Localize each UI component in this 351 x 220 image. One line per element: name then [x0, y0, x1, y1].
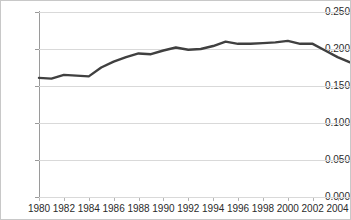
x-axis-tick-label: 1990	[152, 203, 174, 214]
x-axis-tick-mark	[89, 198, 90, 201]
series-polyline	[39, 41, 350, 79]
x-axis-tick-label: 1982	[53, 203, 75, 214]
gridline	[39, 197, 350, 198]
x-axis-tick-mark	[114, 198, 115, 201]
x-axis-tick-mark	[64, 198, 65, 201]
x-axis-tick-label: 2000	[277, 203, 299, 214]
x-axis-tick-label: 2004	[326, 203, 348, 214]
x-axis-tick-mark	[39, 198, 40, 201]
x-axis-tick-label: 1986	[103, 203, 125, 214]
x-axis-tick-label: 1984	[78, 203, 100, 214]
x-axis-tick-label: 1994	[202, 203, 224, 214]
x-axis-tick-mark	[139, 198, 140, 201]
x-axis-tick-mark	[213, 198, 214, 201]
data-series-line	[39, 12, 350, 197]
x-axis-tick-label: 1996	[227, 203, 249, 214]
x-axis-tick-label: 1988	[127, 203, 149, 214]
x-axis-tick-mark	[313, 198, 314, 201]
x-axis-tick-mark	[163, 198, 164, 201]
x-axis-tick-mark	[338, 198, 339, 201]
x-axis-tick-mark	[263, 198, 264, 201]
x-axis-tick-mark	[288, 198, 289, 201]
line-chart: 0.0000.0500.1000.1500.2000.250 198019821…	[0, 0, 351, 220]
x-axis-tick-label: 1998	[252, 203, 274, 214]
x-axis-tick-label: 1992	[177, 203, 199, 214]
plot-area	[39, 12, 350, 197]
x-axis-tick-label: 2002	[302, 203, 324, 214]
x-axis-tick-mark	[188, 198, 189, 201]
x-axis-tick-mark	[238, 198, 239, 201]
x-axis-tick-label: 1980	[28, 203, 50, 214]
